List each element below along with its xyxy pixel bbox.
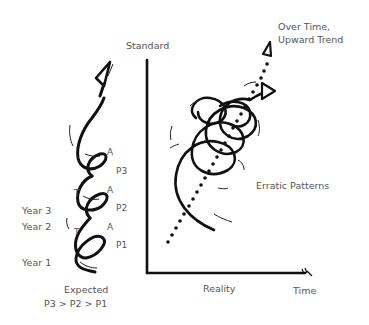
loop-a-label-3: A: [107, 148, 113, 157]
reality-caption: Reality: [203, 284, 235, 294]
loop-t-label-1: T: [74, 228, 80, 237]
expected-caption: Expected: [64, 285, 108, 295]
loop-a-label-2: A: [107, 186, 113, 195]
loop-p1-label: P1: [116, 241, 127, 250]
year-3-label: Year 3: [22, 206, 51, 216]
loops-arrowhead-icon: [262, 83, 275, 99]
loop-a-label-1: A: [107, 223, 113, 232]
year-2-label: Year 2: [22, 222, 51, 232]
loop-p2-label: P2: [116, 204, 127, 213]
erratic-loops: [175, 92, 268, 230]
diagram-canvas: Year 3 Year 2 Year 1 A P3 A P2 A P1 T T …: [0, 0, 369, 325]
year-1-label: Year 1: [22, 258, 51, 268]
trend-label-line2: Upward Trend: [278, 35, 343, 45]
expected-formula: P3 > P2 > P1: [44, 299, 107, 309]
diagram-drawing: [0, 0, 369, 325]
loop-p3-label: P3: [116, 167, 127, 176]
erratic-patterns-label: Erratic Patterns: [256, 181, 329, 191]
expected-spiral: [75, 62, 110, 272]
motion-marks-right: [170, 82, 260, 222]
trend-arrowhead-icon: [263, 42, 271, 56]
x-axis-label: Time: [293, 286, 316, 296]
loop-t-label-2: T: [74, 189, 80, 198]
axis-break-icon: [302, 268, 312, 276]
chart-axes: [147, 60, 305, 273]
y-axis-label: Standard: [126, 41, 169, 51]
trend-label-line1: Over Time,: [278, 22, 330, 32]
